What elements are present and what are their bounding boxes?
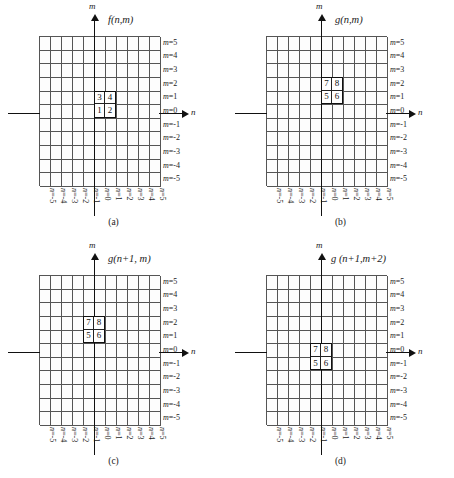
grid-cell	[267, 371, 278, 385]
grid-cell	[267, 105, 278, 119]
grid-cell	[117, 290, 128, 304]
grid-cell	[117, 385, 128, 399]
m-tick-label: m=-3	[163, 148, 180, 156]
grid-cell	[40, 64, 51, 78]
grid-cell	[117, 331, 128, 345]
value-block: 7 8 5 6	[83, 316, 105, 343]
n-tick-label: n=5	[158, 188, 166, 199]
grid-cell	[51, 146, 62, 160]
m-tick-label: m=-5	[163, 175, 180, 183]
grid-cell	[278, 412, 289, 426]
grid-cell	[139, 331, 150, 345]
grid-cell	[106, 160, 117, 174]
m-tick-label: m=1	[390, 332, 404, 340]
grid-cell	[322, 105, 333, 119]
grid-cell	[73, 146, 84, 160]
grid-cell	[128, 119, 139, 133]
grid-cell	[333, 290, 344, 304]
grid-cell	[128, 399, 139, 413]
grid-cell	[106, 64, 117, 78]
grid-cell	[377, 92, 388, 106]
grid-cell	[300, 290, 311, 304]
m-tick-label: m=4	[163, 291, 177, 299]
grid-cell	[51, 412, 62, 426]
grid-cell	[117, 119, 128, 133]
grid-cell	[355, 331, 366, 345]
grid-cell	[366, 51, 377, 65]
grid-cell	[322, 37, 333, 51]
grid-cell	[150, 173, 161, 187]
grid-cell	[128, 173, 139, 187]
grid-cell	[366, 37, 377, 51]
grid-cell	[366, 276, 377, 290]
grid-cell	[62, 276, 73, 290]
grid-cell	[322, 412, 333, 426]
grid-cell	[344, 371, 355, 385]
n-tick-label: n=5	[158, 427, 166, 438]
n-tick-label: n=4	[374, 427, 382, 438]
grid-cell	[278, 173, 289, 187]
grid-cell	[95, 119, 106, 133]
grid-cell	[95, 412, 106, 426]
grid-cell	[300, 173, 311, 187]
grid-cell	[344, 303, 355, 317]
grid-cell	[117, 132, 128, 146]
grid-cell	[73, 290, 84, 304]
grid-cell	[267, 78, 278, 92]
grid-cell	[355, 317, 366, 331]
grid-cell	[62, 303, 73, 317]
grid-cell	[355, 160, 366, 174]
grid-cell	[51, 64, 62, 78]
m-tick-label: m=-5	[163, 414, 180, 422]
grid-cell	[278, 371, 289, 385]
grid-cell	[322, 132, 333, 146]
grid-cell	[150, 37, 161, 51]
grid-cell	[40, 303, 51, 317]
m-tick-label: m=1	[163, 332, 177, 340]
grid-cell	[366, 385, 377, 399]
grid-cell	[355, 385, 366, 399]
grid-cell	[344, 51, 355, 65]
n-tick-label: n=2	[125, 427, 133, 438]
grid-cell	[366, 64, 377, 78]
grid-cell	[355, 51, 366, 65]
grid-cell	[150, 290, 161, 304]
grid-cell	[344, 78, 355, 92]
grid-cell	[344, 64, 355, 78]
grid-cell	[333, 119, 344, 133]
grid-cell	[95, 64, 106, 78]
grid-cell	[322, 399, 333, 413]
grid-cell	[289, 37, 300, 51]
grid-cell	[150, 399, 161, 413]
grid-cell	[366, 344, 377, 358]
grid-cell	[289, 317, 300, 331]
grid-cell	[40, 132, 51, 146]
block-cell-top-left: 3	[95, 92, 105, 105]
grid-cell	[366, 303, 377, 317]
grid-cell	[62, 105, 73, 119]
grid-cell	[139, 358, 150, 372]
grid-cell	[95, 385, 106, 399]
value-block: 3 4 1 2	[94, 91, 116, 118]
grid-cell	[73, 371, 84, 385]
grid-cell	[289, 276, 300, 290]
grid-cell	[267, 276, 278, 290]
grid-cell	[106, 399, 117, 413]
grid-cell	[289, 358, 300, 372]
grid-cell	[366, 105, 377, 119]
grid-cell	[267, 51, 278, 65]
grid-cell	[117, 78, 128, 92]
grid-cell	[355, 132, 366, 146]
grid-cell	[106, 173, 117, 187]
grid-cell	[51, 290, 62, 304]
n-tick-label: n=-2	[81, 427, 89, 438]
grid-cells	[39, 275, 160, 425]
grid-cell	[40, 146, 51, 160]
n-tick-label: n=1	[341, 188, 349, 199]
grid-cell	[355, 119, 366, 133]
grid-cell	[289, 119, 300, 133]
grid-cell	[139, 119, 150, 133]
grid-cell	[106, 317, 117, 331]
grid-cell	[377, 412, 388, 426]
n-tick-label: n=-4	[286, 427, 294, 438]
